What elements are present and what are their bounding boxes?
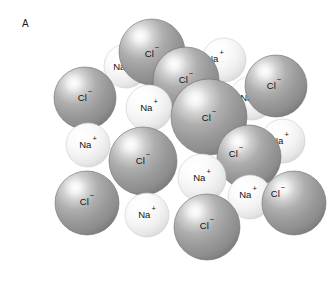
ion-cl-bottom-right: Cl− (262, 171, 326, 235)
ion-na-center-left: Na+ (126, 85, 172, 131)
ion-layer: Na+Cl−Na+Cl−Cl−Na+Cl−Na+Cl−Na+Na+Cl−Cl−C… (54, 19, 326, 260)
ion-cl-mid-left: Cl− (109, 127, 177, 195)
lattice-diagram: Na+Cl−Na+Cl−Cl−Na+Cl−Na+Cl−Na+Na+Cl−Cl−C… (0, 0, 330, 281)
chloride-sphere (245, 55, 307, 117)
ion-cl-top-far-right: Cl− (245, 55, 307, 117)
ion-cl-bottom-center: Cl− (174, 194, 240, 260)
ion-cl-lower-left: Cl− (55, 171, 119, 235)
ion-na-bottom-left: Na+ (125, 193, 169, 237)
ion-na-left-mid: Na+ (66, 123, 110, 167)
ion-cl-upper-left: Cl− (54, 67, 116, 129)
crystal-lattice-figure: A Na+Cl−Na+Cl−Cl−Na+Cl−Na+Cl−Na+Na+Cl−Cl… (0, 0, 330, 281)
chloride-sphere (262, 171, 326, 235)
